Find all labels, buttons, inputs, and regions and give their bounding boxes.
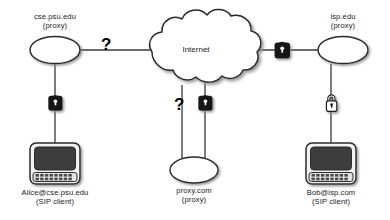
label-cse-proxy: cse.psu.edu (proxy): [15, 12, 95, 31]
label-proxy-com-line2: (proxy): [154, 195, 234, 204]
question-mark-icon-cse-internet: ?: [101, 36, 111, 53]
node-bob-client: [306, 143, 356, 184]
question-mark-icon-proxycom-internet: ?: [174, 96, 184, 113]
label-cse-proxy-line2: (proxy): [15, 21, 95, 30]
label-isp-proxy-line1: isp.edu: [330, 12, 355, 21]
label-alice-client-line1: Alice@cse.psu.edu: [22, 188, 89, 197]
label-isp-proxy-line2: (proxy): [303, 21, 383, 30]
label-alice-client-line2: (SIP client): [5, 197, 105, 206]
closed-padlock-icon-internet-isp: [275, 42, 291, 59]
label-alice-client: Alice@cse.psu.edu (SIP client): [5, 188, 105, 207]
label-proxy-com: proxy.com (proxy): [154, 186, 234, 205]
closed-padlock-icon-alice-cse: [48, 95, 62, 111]
label-bob-client-line2: (SIP client): [286, 197, 376, 206]
node-proxy-com: [170, 157, 218, 183]
node-alice-client: [30, 143, 80, 184]
label-bob-client-line1: Bob@isp.com: [307, 188, 355, 197]
internet-cloud-label: Internet: [166, 45, 226, 54]
label-cse-proxy-line1: cse.psu.edu: [34, 12, 76, 21]
node-isp-proxy: [318, 37, 368, 64]
closed-padlock-icon-proxycom-internet: [198, 95, 212, 111]
label-bob-client: Bob@isp.com (SIP client): [286, 188, 376, 207]
open-padlock-icon-isp-bob: [326, 95, 336, 112]
node-cse-proxy: [30, 37, 80, 64]
network-diagram: Internet cse.psu.edu (proxy) isp.edu (pr…: [0, 0, 390, 220]
label-proxy-com-line1: proxy.com: [176, 186, 211, 195]
label-isp-proxy: isp.edu (proxy): [303, 12, 383, 31]
